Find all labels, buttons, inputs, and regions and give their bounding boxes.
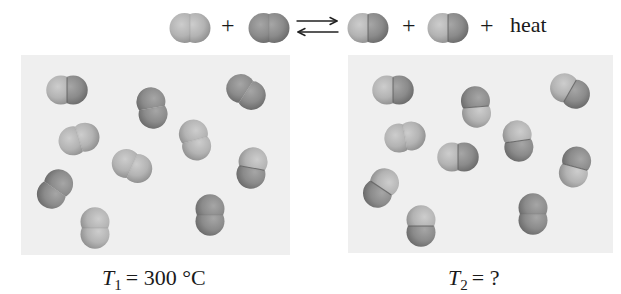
plus-sign-3: +	[480, 13, 494, 37]
molecule	[55, 119, 103, 159]
molecule	[357, 163, 404, 214]
plus-sign-1: +	[221, 13, 235, 37]
molecule	[234, 145, 270, 191]
molecule	[221, 69, 272, 116]
molecule-field-t1	[21, 55, 290, 255]
molecule	[428, 13, 469, 43]
molecule	[107, 144, 157, 187]
molecule	[437, 143, 479, 172]
temperature-subscript: 1	[114, 277, 122, 293]
molecule	[545, 68, 595, 114]
heat-label: heat	[510, 13, 547, 37]
molecule	[134, 85, 170, 131]
molecule	[176, 116, 215, 164]
temperature-value: = ?	[472, 265, 500, 290]
panel-t1	[21, 55, 290, 255]
molecule	[170, 13, 211, 43]
molecule-field-t2	[348, 55, 613, 253]
molecule	[382, 119, 428, 155]
temperature-subscript: 2	[460, 277, 468, 293]
panel-t2	[348, 55, 613, 253]
molecule	[556, 143, 595, 191]
molecule	[519, 193, 548, 235]
equilibrium-figure: + + + heat T1= 300 °C T2= ?	[0, 0, 621, 294]
equilibrium-arrows-icon	[297, 18, 338, 36]
molecule	[372, 76, 414, 105]
molecule	[81, 207, 110, 249]
molecule	[348, 13, 389, 43]
molecule	[31, 164, 79, 215]
molecule	[46, 76, 88, 105]
temperature-symbol: T	[102, 265, 114, 290]
temperature-symbol: T	[448, 265, 460, 290]
molecule	[407, 205, 436, 247]
caption-t1: T1= 300 °C	[102, 266, 206, 292]
plus-sign-2: +	[402, 13, 416, 37]
molecule	[460, 85, 493, 129]
molecule	[249, 13, 290, 43]
molecule	[196, 194, 225, 236]
molecule	[501, 118, 535, 163]
caption-t2: T2= ?	[448, 266, 499, 292]
temperature-value: = 300 °C	[126, 265, 206, 290]
